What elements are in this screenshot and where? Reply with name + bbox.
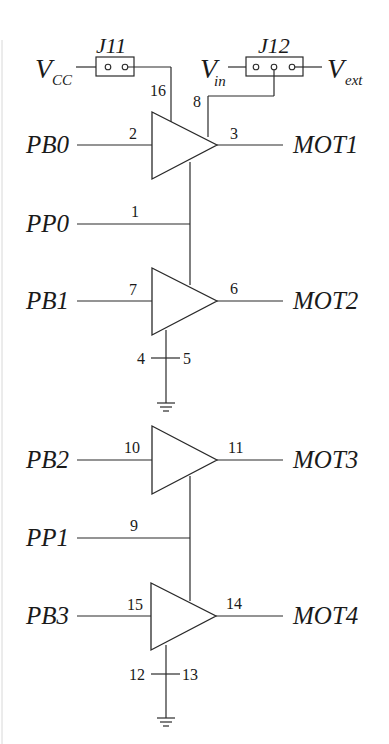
svg-text:5: 5 [183,350,191,367]
pin-16: 16 [150,82,166,99]
signal-pb3: PB3 [25,602,69,629]
driver-2: PB1 7 6 MOT2 [25,268,358,335]
svg-text:3: 3 [230,125,238,142]
svg-text:2: 2 [129,125,137,142]
signal-mot3: MOT3 [292,446,358,473]
ground-1: 4 5 [137,330,191,411]
signal-pb1: PB1 [25,287,69,314]
svg-text:14: 14 [226,595,242,612]
signal-pb0: PB0 [25,131,70,158]
motor-driver-schematic: J11 V CC 16 J12 V in V ext 8 PB0 2 [0,0,389,744]
svg-text:10: 10 [124,439,140,456]
buffer-triangle-3 [152,426,217,494]
signal-mot1: MOT1 [292,131,358,158]
svg-text:1: 1 [131,203,139,220]
svg-text:7: 7 [129,281,137,298]
svg-text:9: 9 [130,517,138,534]
buffer-triangle-1 [152,112,217,179]
vcc-net-label: V CC [35,53,73,88]
buffer-triangle-4 [151,583,216,650]
ground-2: 12 13 [129,645,198,726]
svg-text:V: V [327,53,347,84]
svg-text:12: 12 [129,666,145,683]
driver-1: PB0 2 3 MOT1 [25,112,358,179]
signal-mot4: MOT4 [292,602,358,629]
buffer-triangle-2 [152,268,217,335]
svg-text:ext: ext [345,72,363,88]
j11-label: J11 [96,33,126,58]
svg-text:11: 11 [228,439,243,456]
svg-text:4: 4 [137,350,145,367]
signal-mot2: MOT2 [292,287,358,314]
jumper-j11: J11 [76,33,171,123]
ground-icon [157,718,175,726]
svg-text:in: in [214,73,226,89]
vext-net-label: V ext [327,53,363,88]
signal-pp1: PP1 [25,524,69,551]
ground-icon [157,403,175,411]
svg-text:13: 13 [182,666,198,683]
enable-pp1: PP1 9 [25,476,190,601]
pin-8: 8 [193,93,201,110]
j12-label: J12 [258,33,290,58]
enable-pp0: PP0 1 [25,162,190,285]
driver-4: PB3 15 14 MOT4 [25,583,358,650]
signal-pb2: PB2 [25,446,69,473]
signal-pp0: PP0 [25,210,70,237]
vin-net-label: V in [200,53,226,89]
driver-3: PB2 10 11 MOT3 [25,426,358,494]
svg-text:15: 15 [127,596,143,613]
svg-text:CC: CC [52,72,73,88]
svg-text:6: 6 [230,280,238,297]
